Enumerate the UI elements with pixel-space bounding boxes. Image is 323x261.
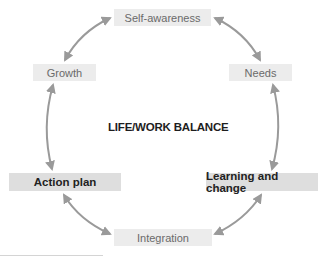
node-label: Integration xyxy=(137,232,189,244)
node-growth: Growth xyxy=(33,64,96,81)
node-label: Growth xyxy=(47,67,82,79)
node-label: Action plan xyxy=(34,176,97,188)
node-label: Self-awareness xyxy=(125,12,201,24)
node-label: Learning and change xyxy=(206,170,318,194)
arrow-growth-self-awareness xyxy=(65,18,110,60)
node-action-plan: Action plan xyxy=(9,173,121,191)
node-learning-and-change: Learning and change xyxy=(206,173,318,191)
arrow-needs-learning xyxy=(272,85,278,169)
node-integration: Integration xyxy=(114,229,212,246)
arrow-integration-action xyxy=(64,195,110,234)
arrow-self-awareness-needs xyxy=(215,18,260,60)
arrow-action-growth xyxy=(47,85,53,169)
diagram-title: LIFE/WORK BALANCE xyxy=(108,121,220,133)
divider-line xyxy=(0,255,103,256)
node-needs: Needs xyxy=(229,64,292,81)
node-self-awareness: Self-awareness xyxy=(114,9,211,26)
arrow-learning-integration xyxy=(215,195,261,234)
node-label: Needs xyxy=(245,67,277,79)
